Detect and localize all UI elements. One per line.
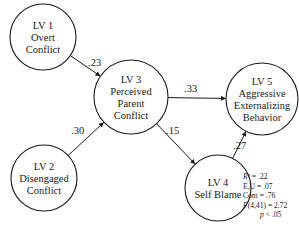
- node-label: Disengaged: [19, 173, 69, 184]
- node-lv3: LV 3PerceivedParentConflict: [94, 60, 168, 134]
- model-fit-statistics: R² = .22E,U = .07Com = .76F(4,41) = 2.72…: [242, 172, 288, 219]
- node-lv2: LV 2DisengagedConflict: [11, 145, 77, 211]
- path-diagram: LV 1OvertConflictLV 2DisengagedConflictL…: [0, 0, 299, 235]
- path-coefficient: .30: [71, 125, 84, 136]
- node-label: Externalizing: [234, 100, 291, 111]
- node-label: LV 1: [33, 20, 54, 31]
- node-label: Overt: [31, 32, 55, 43]
- node-label: Self Blame: [195, 189, 242, 200]
- stat-line: E,U = .07: [243, 182, 273, 191]
- node-label: Aggressive: [238, 88, 286, 99]
- stat-line: R² = .22: [242, 172, 268, 181]
- node-label: Conflict: [27, 185, 61, 196]
- path-coefficient: .33: [184, 83, 197, 94]
- node-label: LV 4: [208, 177, 229, 188]
- node-label: LV 2: [34, 161, 55, 172]
- path-arrow-lv3-to-lv5: [168, 98, 226, 99]
- stat-line: p < .05: [259, 210, 282, 219]
- path-coefficient: .27: [233, 140, 246, 151]
- node-label: Perceived: [110, 86, 152, 97]
- node-label: Conflict: [26, 44, 60, 55]
- node-label: Parent: [118, 98, 145, 109]
- node-label: LV 5: [252, 76, 273, 87]
- stat-line: F(4,41) = 2.72: [242, 201, 288, 210]
- path-coefficient: .23: [88, 57, 101, 68]
- node-label: LV 3: [121, 74, 142, 85]
- stat-line: Com = .76: [243, 191, 276, 200]
- node-lv5: LV 5AggressiveExternalizingBehavior: [226, 63, 298, 135]
- node-lv1: LV 1OvertConflict: [10, 4, 76, 70]
- node-label: Behavior: [243, 112, 282, 123]
- node-lv4: LV 4Self Blame: [185, 155, 251, 221]
- node-label: Conflict: [114, 110, 148, 121]
- path-coefficient: .15: [166, 125, 179, 136]
